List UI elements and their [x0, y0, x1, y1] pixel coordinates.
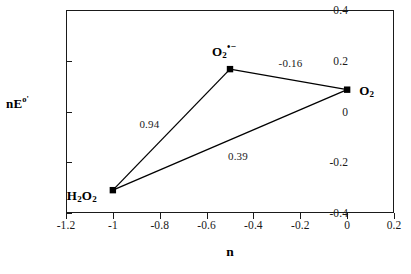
y-axis-tick-mark: [66, 10, 72, 11]
edge-value-label: 0.94: [139, 118, 159, 130]
species-formula-base: O: [359, 83, 369, 98]
species-subscript: 2: [92, 194, 97, 204]
x-axis-tick-label: -1.2: [57, 219, 76, 231]
x-axis-tick-label: -0.8: [150, 219, 169, 231]
species-charge-superscript: •−: [227, 42, 237, 52]
species-subscript: 2: [77, 194, 82, 204]
x-axis-tick-label: -0.4: [244, 219, 263, 231]
x-axis-title: n: [226, 244, 234, 260]
species-formula-base: H: [67, 188, 77, 203]
y-axis-tick-label: 0.2: [333, 55, 348, 67]
y-axis-title-base: nE: [6, 96, 22, 111]
y-axis-tick-label: 0.4: [333, 4, 348, 16]
y-axis-tick-label: 0: [342, 106, 348, 118]
y-axis-tick-mark: [66, 162, 72, 163]
y-axis-tick-mark: [66, 61, 72, 62]
x-axis-tick-label: 0: [344, 219, 350, 231]
y-axis-title-superscript: o': [22, 94, 29, 104]
species-subscript: 2: [369, 89, 374, 99]
species-formula-base: O: [212, 44, 222, 59]
superoxide-label: O2•−: [212, 43, 237, 60]
h2o2-label: H2O2: [67, 188, 97, 204]
x-axis-tick-label: -1: [108, 219, 118, 231]
y-axis-tick-label: -0.4: [329, 207, 348, 219]
x-axis-tick-label: -0.2: [291, 219, 310, 231]
chart-figure: 0.40.20-0.2-0.4-1.2-1-0.8-0.6-0.4-0.200.…: [0, 0, 411, 274]
y-axis-title: nEo': [6, 94, 29, 111]
o2-label: O2: [359, 83, 374, 99]
x-axis-tick-label: 0.2: [387, 219, 402, 231]
species-formula-mid: O: [82, 188, 92, 203]
edge-value-label: 0.39: [228, 150, 248, 162]
y-axis-tick-label: -0.2: [329, 156, 348, 168]
x-axis-tick-label: -0.6: [197, 219, 216, 231]
y-axis-tick-mark: [66, 112, 72, 113]
edge-value-label: -0.16: [279, 57, 303, 69]
